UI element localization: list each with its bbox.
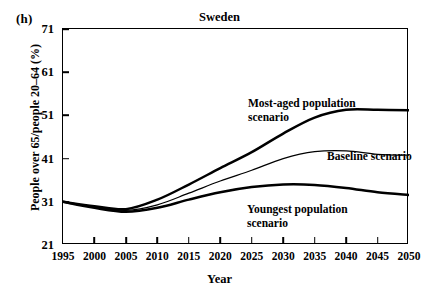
x-tick-mark xyxy=(251,237,253,243)
y-tick-mark xyxy=(63,115,69,117)
x-tick-label: 2000 xyxy=(83,243,106,262)
x-tick-mark xyxy=(314,237,316,243)
x-tick-label: 2025 xyxy=(240,243,263,262)
y-tick-label: 71 xyxy=(14,22,63,37)
y-tick-label: 61 xyxy=(14,65,63,80)
annotation-most-aged-line1: Most-aged population xyxy=(248,97,356,111)
annotation-youngest: Youngest population scenario xyxy=(247,203,348,230)
x-tick-mark xyxy=(125,237,127,243)
x-tick-label: 2010 xyxy=(146,243,169,262)
y-tick-mark xyxy=(63,28,69,30)
x-axis-label: Year xyxy=(0,272,439,287)
x-tick-mark xyxy=(219,237,221,243)
x-tick-label: 2045 xyxy=(366,243,389,262)
x-tick-label: 2015 xyxy=(177,243,200,262)
x-tick-label: 2050 xyxy=(398,243,421,262)
x-tick-label: 1995 xyxy=(52,243,75,262)
y-tick-mark xyxy=(63,71,69,73)
annotation-youngest-line1: Youngest population xyxy=(247,203,348,217)
x-tick-label: 2040 xyxy=(335,243,358,262)
x-tick-mark xyxy=(282,237,284,243)
annotation-baseline-line1: Baseline scenario xyxy=(327,150,412,164)
x-tick-label: 2005 xyxy=(114,243,137,262)
x-tick-label: 2035 xyxy=(303,243,326,262)
annotation-baseline: Baseline scenario xyxy=(327,150,412,164)
y-tick-mark xyxy=(63,158,69,160)
y-tick-label: 51 xyxy=(14,108,63,123)
x-tick-label: 2020 xyxy=(209,243,232,262)
x-tick-mark xyxy=(94,237,96,243)
chart-figure: (h) Sweden People over 65/people 20–64 (… xyxy=(0,0,439,297)
x-tick-mark xyxy=(157,237,159,243)
annotation-most-aged: Most-aged population scenario xyxy=(248,97,356,124)
y-tick-mark xyxy=(63,201,69,203)
annotation-most-aged-line2: scenario xyxy=(248,111,356,125)
y-tick-label: 41 xyxy=(14,151,63,166)
series-lines xyxy=(63,29,409,245)
series-line xyxy=(63,184,409,211)
x-tick-mark xyxy=(188,237,190,243)
x-tick-mark xyxy=(345,237,347,243)
x-tick-mark xyxy=(377,237,379,243)
chart-title: Sweden xyxy=(0,10,439,25)
plot-area: 2131415161711995200020052010201520202025… xyxy=(62,28,408,244)
annotation-youngest-line2: scenario xyxy=(247,217,348,231)
y-tick-label: 31 xyxy=(14,194,63,209)
x-tick-label: 2030 xyxy=(272,243,295,262)
